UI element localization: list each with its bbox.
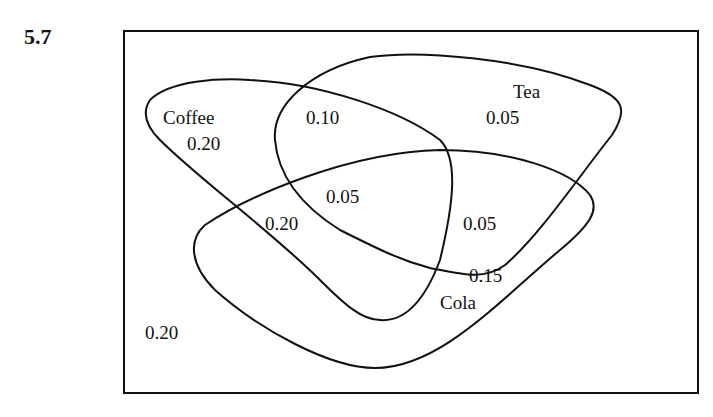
coffee-tea-value: 0.10: [306, 107, 339, 128]
coffee-cola-value: 0.20: [265, 213, 298, 234]
coffee-label: Coffee: [163, 107, 214, 128]
cola-label: Cola: [440, 292, 476, 313]
cola-set-outline: [194, 150, 594, 368]
cola-only-value: 0.15: [469, 265, 502, 286]
tea-label: Tea: [513, 81, 541, 102]
universe-rectangle: [124, 31, 698, 393]
tea-cola-value: 0.05: [463, 213, 496, 234]
all-three-value: 0.05: [326, 186, 359, 207]
none-value: 0.20: [145, 322, 178, 343]
coffee-only-value: 0.20: [187, 133, 220, 154]
venn-diagram: Coffee 0.20 0.10 Tea 0.05 0.05 0.20 0.05…: [0, 0, 713, 417]
tea-only-value: 0.05: [486, 107, 519, 128]
